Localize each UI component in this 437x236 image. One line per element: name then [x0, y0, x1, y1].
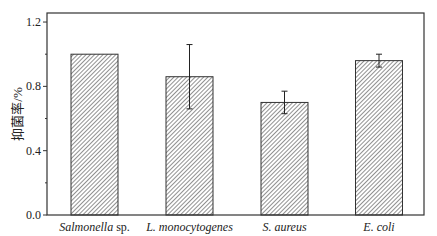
y-axis: 0.00.40.81.2	[26, 15, 47, 222]
bar-1	[71, 54, 118, 215]
x-tick-label: L. monocytogenes	[145, 220, 233, 234]
y-tick-label: 1.2	[26, 15, 41, 29]
bar-chart: 0.00.40.81.2 Salmonella sp.L. monocytoge…	[0, 0, 437, 236]
bar-3	[261, 102, 308, 215]
error-bars-group	[187, 45, 383, 114]
x-axis: Salmonella sp.L. monocytogenesS. aureusE…	[59, 220, 395, 234]
bars-group	[71, 54, 403, 215]
x-tick-label: Salmonella sp.	[59, 220, 130, 234]
x-tick-label: S. aureus	[262, 220, 307, 234]
y-axis-label: 抑菌率/%	[10, 87, 25, 141]
x-tick-label: E. coli	[362, 220, 394, 234]
y-tick-label: 0.8	[26, 79, 41, 93]
y-tick-label: 0.0	[26, 208, 41, 222]
bar-4	[356, 61, 403, 215]
chart-canvas: 0.00.40.81.2 Salmonella sp.L. monocytoge…	[0, 0, 437, 236]
y-tick-label: 0.4	[26, 144, 41, 158]
